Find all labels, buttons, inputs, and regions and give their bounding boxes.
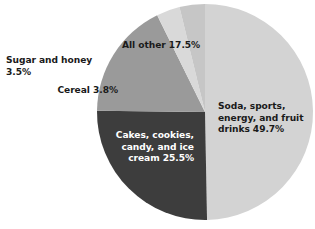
- pie-label-cereal: Cereal 3.8%: [20, 85, 118, 97]
- pie-slice: [97, 111, 207, 220]
- pie-label-soda-sports-energy-fruit-drinks: Soda, sports, energy, and fruit drinks 4…: [218, 101, 310, 136]
- pie-label-cakes-cookies-candy-ice-cream: Cakes, cookies, candy, and ice cream 25.…: [108, 130, 194, 165]
- pie-chart: Soda, sports, energy, and fruit drinks 4…: [0, 0, 315, 229]
- pie-label-all-other: All other 17.5%: [122, 40, 214, 52]
- pie-label-sugar-and-honey: Sugar and honey 3.5%: [6, 55, 118, 78]
